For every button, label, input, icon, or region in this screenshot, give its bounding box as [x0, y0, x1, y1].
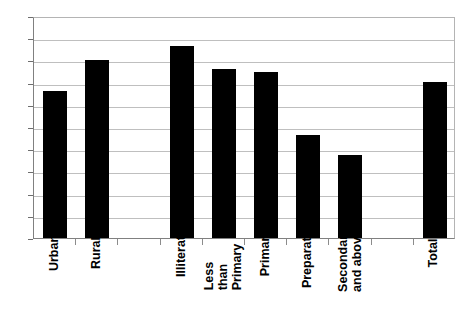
bar[interactable]: [43, 91, 67, 238]
x-tick-mark: [286, 239, 287, 245]
x-tick-label: Preparatory: [286, 246, 328, 324]
x-tick-label: Urban: [33, 246, 75, 324]
x-tick-mark: [371, 239, 372, 245]
x-tick-mark: [117, 239, 118, 245]
x-tick-label: Illiterate: [160, 246, 202, 324]
x-tick-label-text: Less thanPrimary: [202, 244, 244, 291]
x-tick-label: Secondaryand above: [328, 246, 370, 324]
bar[interactable]: [338, 155, 362, 238]
bar-chart: 012345678910 UrbanRuralIlliterateLess th…: [0, 0, 464, 325]
x-tick-label-text: Urban: [47, 235, 61, 271]
x-tick-mark: [75, 239, 76, 245]
x-tick-mark: [160, 239, 161, 245]
x-tick-label: Primary: [244, 246, 286, 324]
x-tick-label-text: Secondaryand above: [335, 228, 363, 292]
bar-slot: [76, 18, 118, 238]
bar[interactable]: [423, 82, 447, 239]
bar[interactable]: [170, 46, 194, 238]
bar[interactable]: [85, 60, 109, 238]
bar-slot: [329, 18, 371, 238]
bar-slot: [287, 18, 329, 238]
bar[interactable]: [212, 69, 236, 238]
bar-slot: [203, 18, 245, 238]
x-tick-mark: [413, 239, 414, 245]
x-tick-label-text: Primary: [258, 230, 272, 277]
bar-slot: [245, 18, 287, 238]
x-tick-label: Total: [413, 246, 455, 324]
bar-slot: [161, 18, 203, 238]
x-tick-label: Rural: [75, 246, 117, 324]
bar[interactable]: [254, 72, 278, 239]
bar-slot: [34, 18, 76, 238]
x-tick-mark: [328, 239, 329, 245]
x-tick-label-text: Total: [427, 239, 441, 268]
y-tick-mark: [28, 239, 33, 240]
plot-area: [33, 17, 455, 239]
bar-slot: [414, 18, 456, 238]
x-tick-label-text: Rural: [89, 237, 103, 269]
x-tick-label: Less thanPrimary: [202, 246, 244, 324]
x-tick-label-text: Illiterate: [174, 229, 188, 277]
x-tick-label-text: Preparatory: [300, 218, 314, 288]
